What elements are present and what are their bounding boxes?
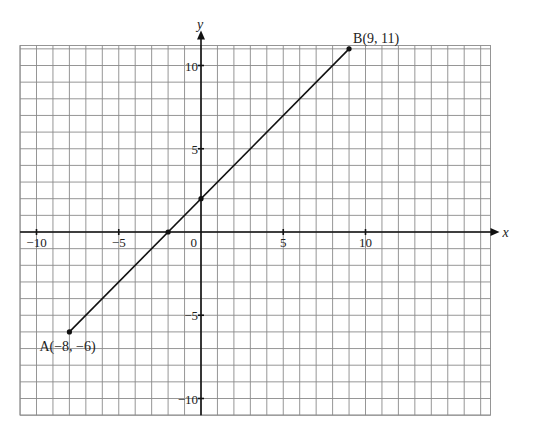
y-tick-label: 5: [192, 142, 199, 157]
coordinate-plane: −10−50510105−5−10 A(−8, −6)B(9, 11) x y: [0, 0, 534, 443]
line-segment-ab: [69, 49, 349, 332]
x-tick-label: 0: [191, 235, 198, 250]
grid-border: [20, 46, 490, 416]
x-tick-label: −10: [26, 235, 46, 250]
x-axis-arrow-icon: [491, 228, 500, 236]
x-tick-label: 10: [359, 235, 372, 250]
x-tick-label: −5: [112, 235, 126, 250]
data-points: A(−8, −6)B(9, 11): [39, 31, 399, 355]
point-b-label: B(9, 11): [353, 31, 399, 47]
data-point-dot: [67, 329, 72, 334]
y-tick-label: −5: [184, 308, 198, 323]
data-point-dot: [346, 46, 351, 51]
y-axis-arrow-icon: [197, 31, 205, 40]
segment-ab-line: [69, 49, 349, 332]
y-axis-label: y: [195, 17, 204, 32]
y-tick-label: 10: [185, 59, 198, 74]
data-point-dot: [166, 229, 171, 234]
y-tick-label: −10: [178, 392, 198, 407]
axes: [20, 31, 499, 416]
data-point-dot: [198, 196, 203, 201]
grid-lines: [20, 46, 490, 416]
x-axis-label: x: [502, 225, 510, 240]
x-tick-label: 5: [280, 235, 287, 250]
point-a-label: A(−8, −6): [39, 339, 96, 355]
